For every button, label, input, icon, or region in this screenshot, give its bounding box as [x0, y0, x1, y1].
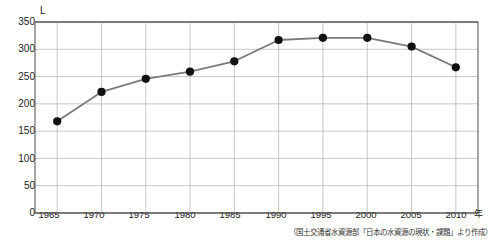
data-point-1995: [319, 34, 327, 42]
line-chart: L 年 0 50 100 150 200 250 300 350 1965 19…: [0, 0, 496, 244]
data-point-markers: [53, 34, 460, 126]
data-point-1985: [230, 57, 238, 65]
data-series-line: [57, 38, 456, 122]
source-note: （国土交通省水資源部「日本の水資源の現状・課題」より作成）: [0, 228, 496, 238]
chart-page: L 年 0 50 100 150 200 250 300 350 1965 19…: [0, 0, 496, 244]
data-point-1980: [186, 68, 194, 76]
data-point-2005: [408, 43, 416, 51]
data-point-1975: [142, 75, 150, 83]
data-point-1970: [97, 88, 105, 96]
data-point-2000: [363, 34, 371, 42]
data-point-1965: [53, 117, 61, 125]
data-point-1990: [275, 36, 283, 44]
data-point-2010: [452, 63, 460, 71]
chart-canvas: [0, 0, 496, 244]
